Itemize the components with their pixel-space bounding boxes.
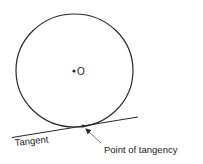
- center-label: O: [77, 66, 85, 77]
- point-of-tangency-label: Point of tangency: [104, 144, 178, 155]
- tangent-diagram: O Tangent Point of tangency: [0, 0, 203, 164]
- tangency-point: [82, 125, 85, 128]
- center-point: [72, 69, 75, 72]
- pointer-arrow: [86, 129, 101, 143]
- tangent-label: Tangent: [14, 133, 49, 148]
